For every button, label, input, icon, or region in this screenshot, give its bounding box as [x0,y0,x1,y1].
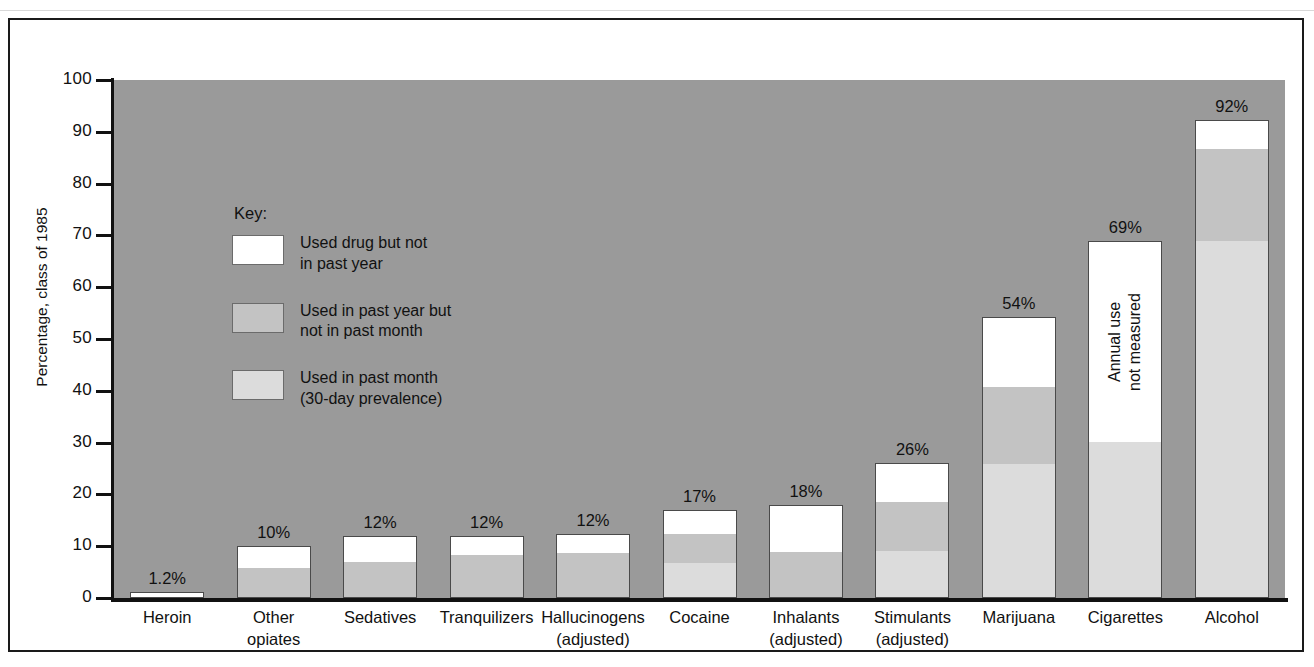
legend-items: Used drug but notin past yearUsed in pas… [232,233,522,410]
legend-label-line2: not in past month [300,321,451,342]
segment-past-year-not-month [770,552,842,597]
legend-label: Used in past year butnot in past month [300,301,451,343]
bar-stack[interactable]: 12% [556,534,630,598]
y-axis-tick-label: 90 [48,121,92,141]
segment-past-month [983,464,1055,597]
bar-stack[interactable]: 26% [875,463,949,598]
x-axis-label: Hallucinogens(adjusted) [540,606,646,651]
segment-past-year-not-month [1196,149,1268,241]
segment-not-past-year [131,593,203,597]
plot-area: Key: Used drug but notin past yearUsed i… [114,80,1285,598]
x-axis-label-line2: opiates [220,628,326,650]
bar-value-label: 17% [683,487,716,506]
segment-not-past-year [876,464,948,502]
bar-stack[interactable]: 12% [450,536,524,598]
legend-swatch [232,303,284,333]
bar-inner-note-line: Annual use [1105,293,1125,391]
bar-group[interactable]: 1.2% [130,592,204,598]
bar-inner-note-line: not measured [1125,293,1145,391]
segment-past-month [664,563,736,597]
segment-past-year-not-month [983,387,1055,464]
segment-not-past-year [983,318,1055,387]
y-axis-tick [96,183,112,186]
y-axis-tick-label: 70 [48,224,92,244]
segment-past-year-not-month [664,534,736,563]
segment-past-year-not-month [557,553,629,597]
x-axis-label-line1: Hallucinogens [541,608,645,626]
bar-stack[interactable]: 1.2% [130,592,204,598]
x-axis-label-line1: Sedatives [344,608,416,626]
segment-not-past-year [1196,121,1268,149]
x-axis-label-line1: Inhalants [772,608,839,626]
y-axis-tick [96,597,112,600]
figure-frame: Percentage, class of 1985 10090807060504… [8,18,1304,652]
bar-stack[interactable]: 18% [769,505,843,598]
segment-not-past-year [238,547,310,567]
bar-group[interactable]: 17% [663,510,737,598]
bar-stack[interactable]: 10% [237,546,311,598]
x-axis-label-line1: Alcohol [1205,608,1259,626]
x-axis-label: Marijuana [966,606,1072,628]
x-axis-label: Inhalants(adjusted) [753,606,859,651]
bar-stack[interactable]: 17% [663,510,737,598]
x-axis-label-line2: (adjusted) [859,628,965,650]
legend-label-line2: (30-day prevalence) [300,389,442,410]
x-axis-category-labels: HeroinOtheropiatesSedativesTranquilizers… [114,606,1285,667]
scan-artifact-strip [0,0,1314,11]
x-axis-label: Otheropiates [220,606,326,651]
bar-stack[interactable]: 92% [1195,120,1269,598]
x-axis-label: Cigarettes [1072,606,1178,628]
x-axis-label-line1: Stimulants [874,608,951,626]
bar-value-label: 12% [577,511,610,530]
chart-legend: Key: Used drug but notin past yearUsed i… [232,204,522,436]
legend-swatch [232,235,284,265]
x-axis-label-line2: (adjusted) [540,628,646,650]
x-axis-label-line1: Marijuana [983,608,1055,626]
bar-value-label: 26% [896,440,929,459]
y-axis-tick-label: 0 [48,587,92,607]
y-axis-tick-label: 40 [48,380,92,400]
legend-label-line1: Used in past year but [300,301,451,322]
y-axis-tick-label: 50 [48,328,92,348]
bar-group[interactable]: 69%Annual usenot measured [1088,241,1162,598]
bar-value-label: 12% [364,513,397,532]
y-axis-tick-label: 100 [48,69,92,89]
segment-not-past-year [344,537,416,562]
bar-group[interactable]: 18% [769,505,843,598]
bar-group[interactable]: 12% [343,536,417,598]
bar-group[interactable]: 92% [1195,120,1269,598]
legend-label: Used drug but notin past year [300,233,427,275]
y-axis-tick-labels: 1009080706050403020100 [36,20,92,650]
bar-value-label: 12% [470,513,503,532]
bar-inner-note: Annual usenot measured [1105,293,1145,391]
x-axis-label-line1: Cigarettes [1088,608,1163,626]
x-axis-label: Heroin [114,606,220,628]
x-axis-label-line2: (adjusted) [753,628,859,650]
bar-value-label: 92% [1215,97,1248,116]
x-axis-label-line1: Cocaine [669,608,730,626]
legend-item: Used in past month(30-day prevalence) [232,368,522,410]
x-axis-line [111,598,1288,602]
bar-stack[interactable]: 69%Annual usenot measured [1088,241,1162,598]
legend-label-line1: Used drug but not [300,233,427,254]
bar-group[interactable]: 54% [982,317,1056,598]
segment-past-year-not-month [876,502,948,550]
bar-value-label: 10% [257,523,290,542]
y-axis-tick-label: 80 [48,173,92,193]
y-axis-tick [96,545,112,548]
bar-group[interactable]: 12% [450,536,524,598]
bar-group[interactable]: 12% [556,534,630,598]
bar-group[interactable]: 10% [237,546,311,598]
y-axis-tick [96,234,112,237]
bar-value-label: 1.2% [148,569,186,588]
bar-value-label: 18% [789,482,822,501]
bar-group[interactable]: 26% [875,463,949,598]
legend-swatch [232,370,284,400]
segment-past-month [876,551,948,597]
x-axis-label-line1: Heroin [143,608,192,626]
legend-item: Used in past year butnot in past month [232,301,522,343]
bar-stack[interactable]: 12% [343,536,417,598]
bar-stack[interactable]: 54% [982,317,1056,598]
x-axis-label: Cocaine [646,606,752,628]
y-axis-tick [96,338,112,341]
